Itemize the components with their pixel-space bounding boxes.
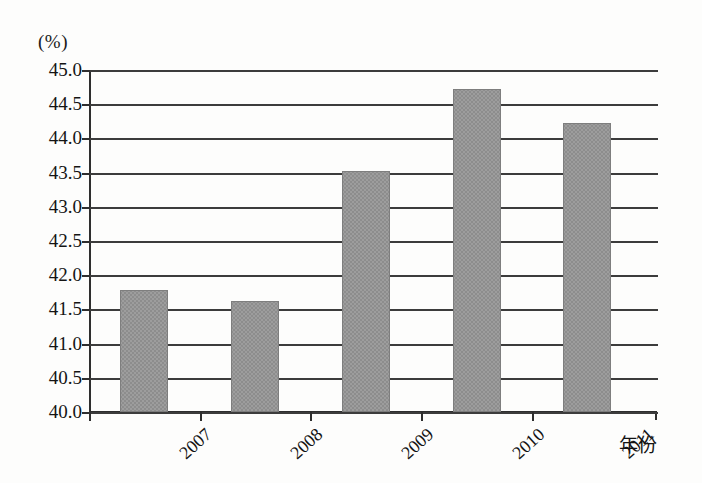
y-axis-tick-label: 42.0 (26, 264, 82, 286)
bar-2008 (231, 301, 279, 412)
y-axis-tick-label: 45.0 (26, 59, 82, 81)
gridline (89, 104, 658, 106)
y-axis-tick (82, 207, 90, 209)
x-axis-label-2008: 2008 (286, 424, 327, 464)
x-axis-label-2010: 2010 (508, 424, 549, 464)
y-axis-tick-label: 40.5 (26, 367, 82, 389)
y-axis-tick-label: 44.5 (26, 93, 82, 115)
y-axis-tick-label: 42.5 (26, 230, 82, 252)
y-axis-tick-label: 41.5 (26, 298, 82, 320)
gridline (89, 70, 658, 72)
y-axis-tick-label: 44.0 (26, 127, 82, 149)
y-axis-tick (82, 104, 90, 106)
x-axis-tick (310, 412, 312, 421)
y-axis-tick-label: 41.0 (26, 333, 82, 355)
x-axis-tick (421, 412, 423, 421)
y-axis-tick (82, 241, 90, 243)
x-axis-tick (532, 412, 534, 421)
x-axis-label-2009: 2009 (397, 424, 438, 464)
bar-2007 (120, 290, 168, 412)
y-axis-tick (82, 173, 90, 175)
chart-figure: (%) 45.044.544.043.543.042.542.041.541.0… (0, 0, 702, 483)
bar-2010 (453, 89, 501, 412)
y-axis-tick-label: 43.0 (26, 196, 82, 218)
x-axis-tick (89, 412, 91, 421)
x-axis-tick (200, 412, 202, 421)
gridline (89, 412, 658, 414)
y-axis-tick (82, 378, 90, 380)
y-axis-tick-label: 43.5 (26, 162, 82, 184)
x-axis-label-2007: 2007 (176, 424, 217, 464)
y-axis-tick (82, 309, 90, 311)
bar-2009 (342, 171, 390, 412)
bar-2011 (563, 123, 611, 412)
y-axis-tick (82, 344, 90, 346)
y-axis-tick (82, 275, 90, 277)
y-axis-tick (82, 70, 90, 72)
plot-area (89, 70, 656, 412)
x-axis-title: 年份 (619, 430, 657, 457)
y-axis-unit-label: (%) (38, 31, 68, 53)
y-axis-tick (82, 138, 90, 140)
y-axis-tick-label: 40.0 (26, 401, 82, 423)
